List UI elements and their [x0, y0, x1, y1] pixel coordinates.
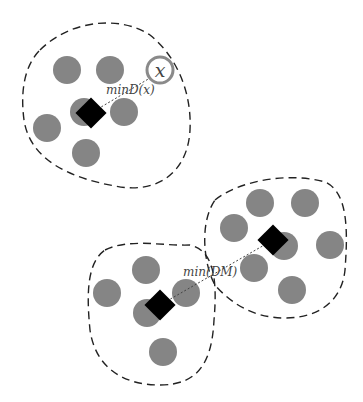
data-point-bottom-left-0 [132, 256, 160, 284]
min-distance-clusters-label: min(DM) [183, 265, 238, 279]
data-point-bottom-right-2 [220, 214, 248, 242]
diagram-canvas: x minD(x) min(DM) [0, 0, 363, 402]
data-point-bottom-right-0 [246, 189, 274, 217]
data-point-bottom-right-4 [316, 231, 344, 259]
query-point-label: x [155, 59, 166, 81]
data-point-top-left-0 [53, 56, 81, 84]
data-point-top-left-2 [110, 98, 138, 126]
min-distance-point-label: minD(x) [106, 83, 155, 97]
data-point-bottom-left-4 [149, 338, 177, 366]
data-point-top-left-4 [33, 114, 61, 142]
data-point-top-left-1 [96, 56, 124, 84]
data-point-bottom-right-5 [240, 254, 268, 282]
data-point-bottom-right-1 [291, 189, 319, 217]
data-point-bottom-right-6 [278, 276, 306, 304]
data-point-top-left-5 [72, 139, 100, 167]
data-point-bottom-left-1 [93, 279, 121, 307]
cluster-boundary-top-left [23, 23, 190, 188]
data-point-bottom-left-2 [172, 279, 200, 307]
